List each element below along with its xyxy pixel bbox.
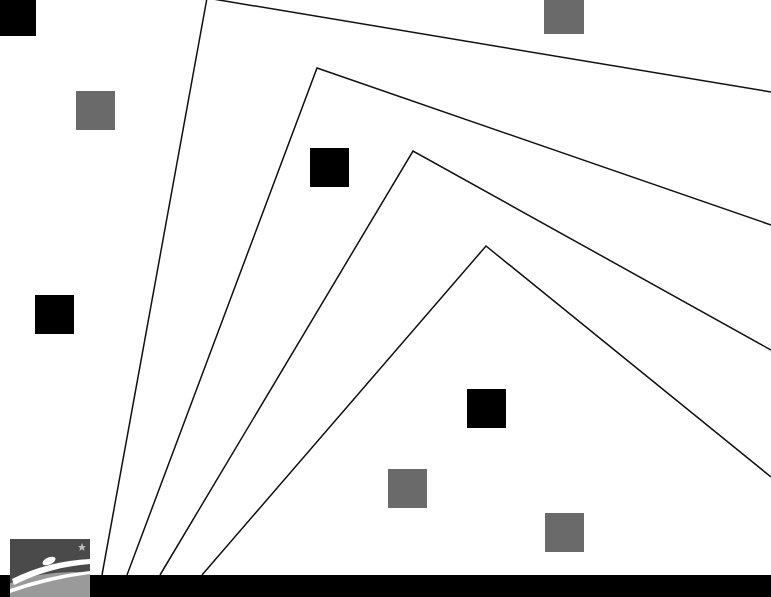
black-square-lower bbox=[467, 389, 506, 428]
black-square-center bbox=[310, 148, 349, 187]
chevron-line-2 bbox=[127, 68, 771, 575]
gray-square-lower-right bbox=[545, 513, 584, 552]
black-square-top-left bbox=[0, 0, 36, 36]
black-square-left bbox=[35, 295, 74, 334]
bottom-bar bbox=[0, 575, 771, 597]
gray-square-top-right bbox=[544, 0, 584, 34]
chevron-line-1 bbox=[102, 0, 771, 575]
slide-graphics bbox=[0, 0, 771, 597]
gray-square-lower-left bbox=[388, 469, 427, 508]
logo bbox=[10, 539, 90, 597]
gray-square-left bbox=[76, 91, 115, 130]
chevron-line-3 bbox=[160, 151, 771, 575]
logo-icon bbox=[10, 539, 90, 597]
